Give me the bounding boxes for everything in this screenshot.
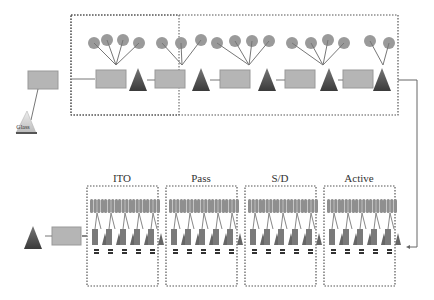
loader-box	[28, 71, 58, 89]
stage-label-active: Active	[324, 172, 394, 184]
panel-sd	[245, 186, 322, 286]
top-stage-4	[285, 34, 350, 91]
panel-active	[324, 186, 401, 286]
flow-connector	[398, 80, 417, 247]
stage-label-ito: ITO	[87, 172, 157, 184]
top-stage-box	[71, 15, 179, 115]
top-stage-1	[88, 34, 147, 91]
panel-pass	[166, 186, 243, 286]
top-stage-5	[343, 35, 395, 91]
panel-ito	[87, 186, 164, 286]
unloader-box	[52, 227, 81, 245]
top-stage-3	[211, 35, 276, 91]
process-flow-diagram	[0, 0, 434, 300]
top-stage-2	[155, 34, 210, 91]
glass-label: Glass	[8, 124, 38, 130]
stage-label-pass: Pass	[166, 172, 236, 184]
stage-label-sd: S/D	[245, 172, 315, 184]
output-triangle-icon	[24, 226, 42, 249]
